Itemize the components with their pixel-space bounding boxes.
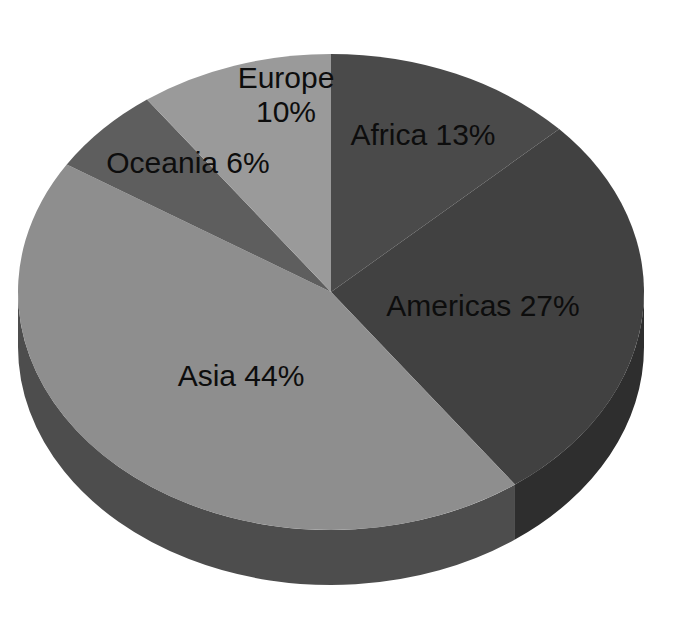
slice-label-oceania: Oceania 6% xyxy=(106,146,269,179)
slice-label-africa: Africa 13% xyxy=(350,118,495,151)
chart-canvas: Africa 13%Americas 27%Asia 44%Oceania 6%… xyxy=(0,0,679,619)
slice-label-asia: Asia 44% xyxy=(178,359,305,392)
slice-label-americas: Americas 27% xyxy=(386,289,579,322)
pie-chart-3d: Africa 13%Americas 27%Asia 44%Oceania 6%… xyxy=(0,0,679,619)
